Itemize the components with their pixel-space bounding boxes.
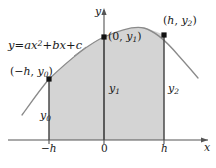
point-marker-right [161, 32, 166, 37]
equation-coefficient-b: b [52, 38, 59, 52]
point-left-x: −h [14, 65, 30, 78]
ordinate-label-y2: y2 [168, 83, 179, 94]
equation-equals: = [15, 38, 25, 52]
point-marker-middle [101, 34, 106, 39]
point-left-separator: , [31, 65, 38, 78]
y-axis-arrowhead [101, 8, 106, 15]
parabola-figure: y=ax2+bx+c (−h, y0) (0, y1) (h, y2) y0 y… [0, 0, 216, 168]
x-tick-label-negative-h: −h [41, 143, 57, 154]
point-label-left: (−h, y0) [10, 66, 53, 77]
ordinate-y2-subscript: 2 [174, 87, 179, 96]
point-middle-close-paren: ) [137, 30, 141, 43]
equation-label: y=ax2+bx+c [8, 40, 82, 52]
x-tick-label-zero: 0 [101, 143, 108, 154]
ordinate-label-y1: y1 [109, 83, 120, 94]
point-right-close-paren: ) [192, 14, 196, 27]
point-label-right: (h, y2) [163, 15, 197, 26]
y-axis-label: y [95, 6, 101, 17]
equation-plus-1: + [42, 38, 52, 52]
point-label-middle: (0, y1) [108, 31, 142, 42]
ordinate-y0-subscript: 0 [46, 114, 51, 123]
equation-coefficient-a: a [24, 38, 31, 52]
equation-plus-2: + [66, 38, 76, 52]
equation-constant-c: c [76, 38, 82, 52]
ordinate-label-y0: y0 [40, 110, 51, 121]
x-tick-label-positive-h: h [161, 143, 168, 154]
x-axis-label: x [204, 142, 210, 153]
ordinate-y1-subscript: 1 [115, 87, 120, 96]
point-left-close-paren: ) [49, 65, 53, 78]
